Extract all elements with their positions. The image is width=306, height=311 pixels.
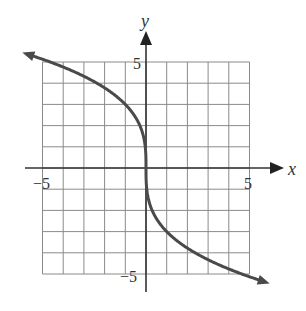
y-axis-arrow-icon [140, 31, 152, 45]
curve-right-arrow-icon [257, 275, 270, 285]
y-axis-label: y [139, 11, 149, 31]
x-tick-label-min: −5 [33, 175, 50, 192]
x-axis-label: x [287, 159, 296, 179]
curve-left-arrow-icon [22, 52, 35, 62]
x-axis-arrow-icon [270, 162, 284, 174]
y-tick-label-min: −5 [120, 268, 137, 285]
y-tick-label-max: 5 [133, 55, 141, 72]
cube-root-graph: x y −5 5 5 −5 [0, 0, 306, 311]
x-tick-label-max: 5 [244, 175, 252, 192]
